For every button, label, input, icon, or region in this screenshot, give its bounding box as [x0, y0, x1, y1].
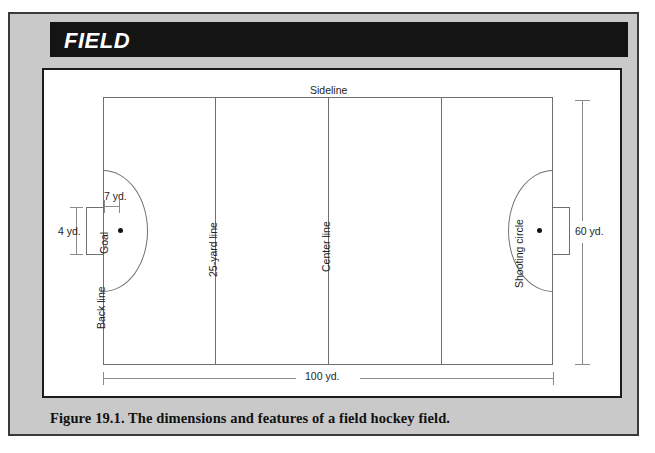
- penalty-spot-right: [537, 228, 542, 233]
- line-25-yard-right: [441, 97, 442, 365]
- section-header-bar: FIELD: [50, 22, 628, 57]
- dimension-cap-goal-top: [70, 207, 83, 208]
- label-goal: Goal: [98, 232, 110, 254]
- dimension-cap-goal-bottom: [70, 254, 83, 255]
- dimension-cap-length-right: [553, 372, 554, 385]
- label-goal-width: 4 yd.: [58, 225, 81, 237]
- label-sideline: Sideline: [310, 84, 347, 96]
- figure-caption: Figure 19.1. The dimensions and features…: [50, 410, 450, 427]
- dimension-rule-penalty-spot: [104, 206, 120, 207]
- goal-right: [552, 207, 570, 255]
- figure-page: FIELD Sideline 25-yard line Center line …: [0, 0, 655, 453]
- dimension-cap-width-top: [575, 100, 590, 101]
- dimension-cap-length-left: [103, 372, 104, 385]
- penalty-spot-left: [118, 228, 123, 233]
- label-field-width: 60 yd.: [575, 225, 604, 237]
- section-title: FIELD: [64, 28, 130, 54]
- label-field-length: 100 yd.: [305, 370, 339, 382]
- label-25-yard-line: 25-yard line: [207, 222, 219, 277]
- label-shooting-circle: Shooting circle: [513, 219, 525, 288]
- dimension-cap-width-bottom: [575, 364, 590, 365]
- label-center-line: Center line: [320, 221, 332, 272]
- label-penalty-spot-distance: 7 yd.: [104, 190, 127, 202]
- label-back-line: Back line: [95, 286, 107, 329]
